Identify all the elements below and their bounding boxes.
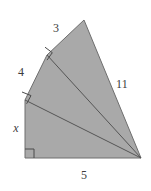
- side-label-4: 4: [18, 66, 24, 78]
- side-label-x: x: [13, 122, 19, 134]
- geometry-figure: 3 4 11 x 5: [0, 0, 151, 191]
- side-label-11: 11: [116, 78, 128, 90]
- figure-canvas: [0, 0, 151, 191]
- side-label-5: 5: [81, 169, 87, 181]
- side-label-3: 3: [53, 22, 59, 34]
